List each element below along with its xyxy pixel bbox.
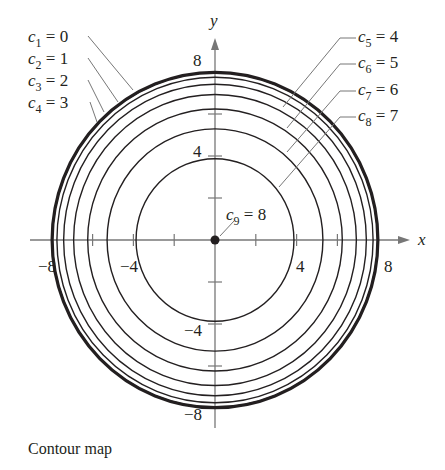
- y-axis-label: y: [208, 11, 218, 30]
- contour-label-c7: c7 = 6: [358, 80, 398, 103]
- y-tick-label: −8: [184, 405, 202, 424]
- contour-label-c3: c3 = 2: [28, 71, 68, 94]
- leader-line-c1: [88, 36, 133, 90]
- contour-label-c2: c2 = 1: [28, 49, 68, 72]
- x-tick-label: 4: [296, 257, 305, 276]
- y-tick-label: −4: [184, 321, 203, 340]
- leader-line-c3: [88, 80, 104, 112]
- y-tick-label: 8: [193, 51, 202, 70]
- figure-caption: Contour map: [28, 440, 112, 458]
- leader-line-c4: [90, 102, 97, 122]
- contour-map: xy−8−44884−4−8c1 = 0c2 = 1c3 = 2c4 = 3c5…: [0, 0, 445, 470]
- contour-c9-point: [211, 236, 220, 245]
- leader-line-c5: [283, 38, 356, 107]
- y-tick-label: 4: [193, 142, 202, 161]
- contour-label-c8: c8 = 7: [358, 106, 399, 129]
- contour-label-c5: c5 = 4: [358, 27, 399, 50]
- contour-label-c4: c4 = 3: [28, 93, 68, 116]
- contour-label-c9: c9 = 8: [226, 205, 266, 228]
- x-tick-label: −8: [38, 257, 56, 276]
- x-tick-label: 8: [384, 257, 393, 276]
- y-axis-arrow-icon: [211, 38, 219, 50]
- contour-label-c1: c1 = 0: [28, 27, 68, 50]
- x-axis-label: x: [417, 230, 426, 249]
- leader-line-c2: [88, 58, 118, 102]
- contour-label-c6: c6 = 5: [358, 53, 398, 76]
- x-axis-arrow-icon: [398, 236, 410, 244]
- x-tick-label: −4: [120, 257, 139, 276]
- leader-line-c8: [279, 117, 356, 187]
